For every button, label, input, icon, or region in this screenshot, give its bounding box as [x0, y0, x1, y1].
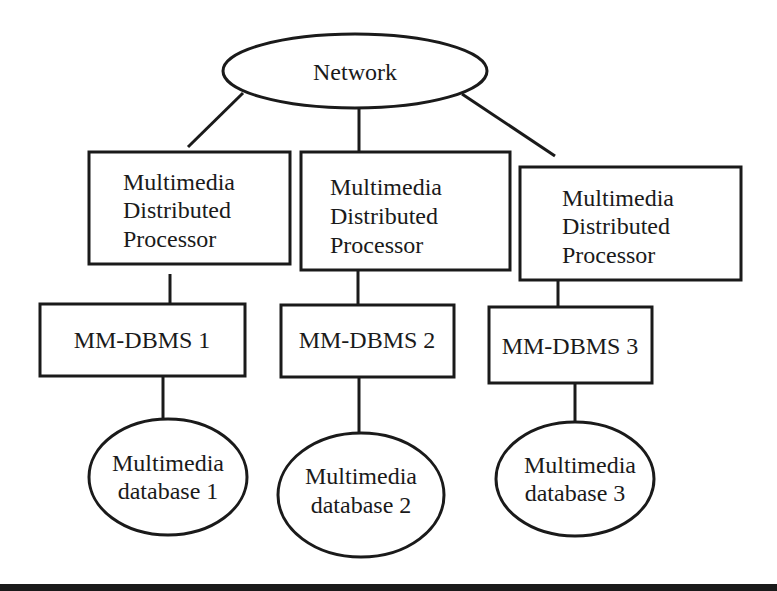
- processor-1-line-2: Distributed: [123, 197, 231, 223]
- dbms-node-1: MM-DBMS 1: [40, 304, 245, 376]
- database-2-line-1: Multimedia: [305, 463, 417, 489]
- database-node-3: Multimedia database 3: [496, 422, 654, 536]
- processor-2-line-3: Processor: [330, 232, 423, 258]
- dbms-3-label: MM-DBMS 3: [502, 333, 639, 359]
- processor-3-line-2: Distributed: [562, 213, 670, 239]
- processor-3-line-3: Processor: [562, 242, 655, 268]
- database-node-2: Multimedia database 2: [278, 433, 444, 557]
- processor-1-line-1: Multimedia: [123, 169, 235, 195]
- database-1-line-2: database 1: [118, 478, 219, 504]
- processor-node-1: Multimedia Distributed Processor: [89, 152, 290, 264]
- architecture-diagram: Network Multimedia Distributed Processor…: [0, 0, 777, 591]
- edge-network-processor-1: [188, 93, 243, 147]
- processor-2-line-2: Distributed: [330, 203, 438, 229]
- processor-1-line-3: Processor: [123, 226, 216, 252]
- dbms-node-2: MM-DBMS 2: [281, 305, 454, 377]
- dbms-2-label: MM-DBMS 2: [299, 327, 436, 353]
- bottom-rule: [0, 584, 777, 591]
- database-3-line-1: Multimedia: [524, 452, 636, 478]
- database-2-line-2: database 2: [311, 492, 412, 518]
- processor-3-line-1: Multimedia: [562, 185, 674, 211]
- processor-2-line-1: Multimedia: [330, 174, 442, 200]
- processor-node-2: Multimedia Distributed Processor: [301, 152, 510, 270]
- processor-node-3: Multimedia Distributed Processor: [520, 167, 741, 280]
- database-node-1: Multimedia database 1: [89, 419, 247, 535]
- network-label: Network: [313, 59, 397, 85]
- dbms-1-label: MM-DBMS 1: [74, 327, 211, 353]
- dbms-node-3: MM-DBMS 3: [489, 307, 652, 383]
- database-1-line-1: Multimedia: [112, 450, 224, 476]
- edge-network-processor-3: [462, 94, 555, 156]
- network-node: Network: [223, 34, 487, 108]
- database-3-line-2: database 3: [525, 480, 626, 506]
